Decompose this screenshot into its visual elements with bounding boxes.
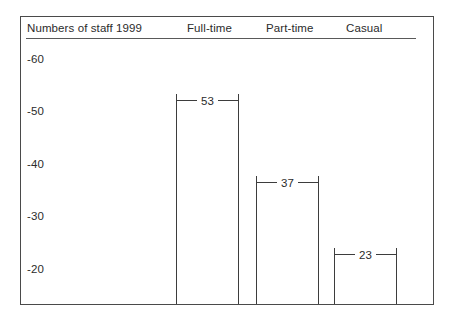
bar-cap-segment-right bbox=[376, 254, 396, 255]
y-axis-tick-50: -50 bbox=[27, 105, 44, 117]
y-axis-tick-30: -30 bbox=[27, 210, 44, 222]
bar-cap-segment-right bbox=[218, 100, 238, 101]
column-header-part-time: Part-time bbox=[266, 22, 314, 34]
bar-value-label-casual: 23 bbox=[355, 249, 376, 261]
bar-cap-segment-left bbox=[257, 182, 277, 183]
bar-cap-segment-left bbox=[335, 254, 355, 255]
chart-frame: Numbers of staff 1999 Full-time Part-tim… bbox=[20, 16, 434, 305]
bar-cap-segment-right bbox=[298, 182, 318, 183]
y-axis-tick-60: -60 bbox=[27, 53, 44, 65]
column-header-casual: Casual bbox=[346, 22, 382, 34]
bar-cap-casual: 23 bbox=[335, 248, 396, 261]
bar-casual: 23 bbox=[334, 248, 397, 304]
bar-cap-full-time: 53 bbox=[177, 94, 238, 107]
column-header-full-time: Full-time bbox=[187, 22, 232, 34]
chart-header-row: Numbers of staff 1999 Full-time Part-tim… bbox=[21, 17, 435, 45]
bar-value-label-full-time: 53 bbox=[197, 95, 218, 107]
bar-value-label-part-time: 37 bbox=[277, 177, 298, 189]
chart-screenshot: Numbers of staff 1999 Full-time Part-tim… bbox=[0, 0, 458, 331]
bar-part-time: 37 bbox=[256, 176, 319, 304]
y-axis-tick-20: -20 bbox=[27, 263, 44, 275]
plot-area: -60 -50 -40 -30 -20 53 37 bbox=[21, 45, 435, 304]
y-axis-tick-40: -40 bbox=[27, 158, 44, 170]
header-underline bbox=[26, 38, 416, 39]
bar-cap-segment-left bbox=[177, 100, 197, 101]
chart-title: Numbers of staff 1999 bbox=[27, 22, 142, 34]
bar-cap-part-time: 37 bbox=[257, 176, 318, 189]
bar-full-time: 53 bbox=[176, 94, 239, 304]
